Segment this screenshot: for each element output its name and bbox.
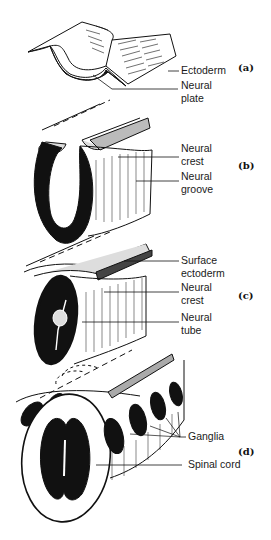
panel-tag-d: (d) <box>238 446 254 457</box>
panel-tag-b: (b) <box>238 160 254 171</box>
label-neural-tube-line1: Neural <box>181 311 212 324</box>
label-neural-plate: Neural plate <box>181 79 212 105</box>
label-neural-crest-c-line2: crest <box>181 294 212 307</box>
label-neural-crest-c-line1: Neural <box>181 281 212 294</box>
label-surface-ectoderm: Surface ectoderm <box>181 254 225 280</box>
label-ganglia: Ganglia <box>188 430 224 443</box>
panel-b-drawing <box>34 100 179 243</box>
panel-d-drawing <box>16 350 186 526</box>
label-surface-ectoderm-line1: Surface <box>181 254 225 267</box>
label-ectoderm: Ectoderm <box>181 64 226 77</box>
label-neural-crest-c: Neural crest <box>181 281 212 307</box>
label-neural-crest-b-line2: crest <box>181 155 212 168</box>
label-neural-crest-b-line1: Neural <box>181 142 212 155</box>
panel-tag-c: (c) <box>238 290 254 301</box>
panel-a-drawing <box>28 22 179 89</box>
label-spinal-cord: Spinal cord <box>188 458 241 471</box>
label-neural-tube-line2: tube <box>181 324 212 337</box>
label-surface-ectoderm-line2: ectoderm <box>181 267 225 280</box>
label-neural-tube: Neural tube <box>181 311 212 337</box>
label-neural-crest-b: Neural crest <box>181 142 212 168</box>
panel-c-drawing <box>24 232 179 366</box>
label-neural-plate-line1: Neural <box>181 79 212 92</box>
label-neural-groove-line1: Neural <box>181 170 213 183</box>
label-neural-plate-line2: plate <box>181 92 212 105</box>
panel-tag-a: (a) <box>238 62 254 73</box>
label-neural-groove: Neural groove <box>181 170 213 196</box>
label-neural-groove-line2: groove <box>181 183 213 196</box>
